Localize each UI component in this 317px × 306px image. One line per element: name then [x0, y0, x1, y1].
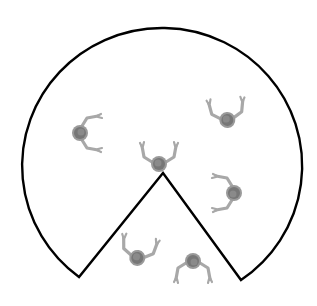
- person-figure-left: [72, 114, 102, 152]
- room-outline: [22, 28, 302, 280]
- person-figure-bottom-right: [174, 253, 212, 283]
- room-diagram: [0, 0, 317, 306]
- person-figure-bottom-left: [117, 233, 160, 269]
- person-figure-upper-right: [207, 96, 247, 129]
- person-figure-right: [212, 174, 242, 212]
- person-figure-center: [140, 142, 178, 172]
